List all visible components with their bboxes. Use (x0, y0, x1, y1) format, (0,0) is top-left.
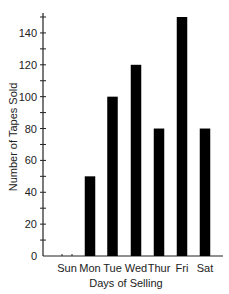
x-tick-label: Sat (197, 262, 214, 274)
x-tick-label: Thur (148, 262, 171, 274)
y-axis: 020406080100120140 (19, 13, 46, 262)
y-tick-label: 120 (19, 59, 37, 71)
bar-thur (154, 129, 165, 256)
y-tick-label: 100 (19, 91, 37, 103)
x-tick-label: Wed (125, 262, 147, 274)
bar-sat (200, 129, 211, 256)
x-tick-label: Fri (176, 262, 189, 274)
y-tick-label: 40 (25, 186, 37, 198)
bar-tue (107, 97, 118, 256)
bar-mon (85, 176, 96, 256)
x-axis: SunMonTueWedThurFriSat (43, 256, 223, 274)
x-tick-label: Tue (103, 262, 122, 274)
y-tick-label: 20 (25, 218, 37, 230)
y-tick-label: 140 (19, 27, 37, 39)
y-tick-label: 80 (25, 123, 37, 135)
y-tick-label: 60 (25, 154, 37, 166)
y-axis-label: Number of Tapes Sold (7, 83, 19, 192)
x-axis-label: Days of Selling (89, 277, 162, 289)
bar-wed (131, 65, 142, 256)
bar-chart: 020406080100120140 SunMonTueWedThurFriSa… (0, 0, 229, 294)
x-tick-label: Mon (79, 262, 100, 274)
bars (62, 17, 210, 256)
x-tick-label: Sun (57, 262, 77, 274)
bar-fri (177, 17, 188, 256)
y-tick-label: 0 (31, 250, 37, 262)
